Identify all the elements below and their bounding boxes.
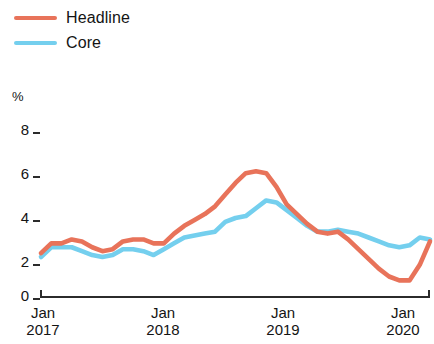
x-tick-month-2018: Jan [151, 304, 175, 321]
x-tick-year-2019: 2019 [248, 321, 318, 338]
x-tick-year-2017: 2017 [8, 321, 78, 338]
x-tick-jan-2018: Jan 2018 [128, 304, 198, 338]
x-tick-month-2017: Jan [31, 304, 55, 321]
x-tick-jan-2019: Jan 2019 [248, 304, 318, 338]
x-tick-month-2020: Jan [391, 304, 415, 321]
x-tick-year-2018: 2018 [128, 321, 198, 338]
inflation-line-chart: Headline Core % 8 6 4 2 0 Jan 2017 Jan [0, 0, 434, 344]
x-axis-left-cap [40, 290, 42, 298]
x-tick-year-2020: 2020 [368, 321, 434, 338]
x-tick-jan-2020: Jan 2020 [368, 304, 434, 338]
plot-area [0, 0, 434, 344]
x-tick-jan-2017: Jan 2017 [8, 304, 78, 338]
x-tick-month-2019: Jan [271, 304, 295, 321]
x-axis-right-cap [428, 290, 430, 298]
x-axis-line [40, 296, 430, 298]
series-line-headline [41, 171, 430, 280]
